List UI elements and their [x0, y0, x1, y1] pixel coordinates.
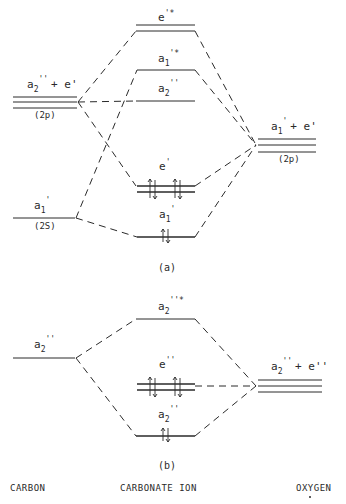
label-a1-bonding: a	[159, 208, 166, 221]
dot-mark	[309, 496, 311, 498]
caption-b: (b)	[158, 460, 176, 471]
panel-b: a2''* a2'' e'' a2''+ e''	[13, 296, 328, 471]
electron-pair-icon	[161, 428, 170, 442]
svg-text:a1'*: a1'*	[158, 49, 179, 68]
electron-pair-icon	[173, 377, 182, 397]
label-oxygen-2p: a	[271, 120, 278, 133]
orbital-oxygen-2p: (2p)	[278, 154, 300, 164]
svg-text:a2''*: a2''*	[158, 296, 184, 316]
caption-a: (a)	[158, 262, 176, 273]
mo-level-a2-star: a2''*	[136, 296, 195, 319]
carbon-level-2s: a1' (2S)	[13, 196, 75, 231]
mo-level-e-nb: e''	[137, 356, 195, 397]
panel-a: e'* a1'* a2'' a2''+ e' (2p) a1'+ e' (2p)	[13, 9, 317, 273]
electron-pair-icon	[173, 179, 182, 199]
svg-text:a2''+ e'': a2''+ e''	[271, 357, 328, 376]
column-label-carbon: CARBON	[10, 483, 46, 493]
carbon-level-a2: a2''	[13, 335, 75, 358]
mo-level-a1-star: a1'*	[137, 49, 195, 70]
electron-pair-icon	[161, 229, 170, 243]
svg-text:a1': a1'	[34, 196, 50, 215]
svg-text:a1': a1'	[159, 205, 175, 224]
label-oxygen-b: a	[271, 360, 278, 373]
label-a2-bonding: a	[158, 408, 165, 421]
mo-diagram: e'* a1'* a2'' a2''+ e' (2p) a1'+ e' (2p)	[0, 0, 346, 504]
mo-level-a2-bonding: a2''	[136, 405, 195, 442]
svg-text:a2'': a2''	[34, 335, 55, 354]
oxygen-level-b: a2''+ e''	[258, 357, 328, 392]
svg-text:a1'+ e': a1'+ e'	[271, 117, 317, 136]
electron-pair-icon	[148, 377, 157, 397]
label-carbon-a2: a	[34, 338, 41, 351]
label-e-nb: e	[159, 358, 166, 371]
electron-pair-icon	[148, 179, 157, 199]
label-a2-star: a	[158, 300, 165, 313]
mo-level-a1-bonding: a1'	[137, 205, 195, 243]
mo-level-a2-nb: a2''	[136, 79, 195, 101]
mo-level-e-bonding: e'	[137, 158, 195, 199]
label-e-bonding: e	[159, 160, 166, 173]
column-labels: CARBON CARBONATE ION OXYGEN	[10, 483, 332, 498]
column-label-carbonate-ion: CARBONATE ION	[120, 483, 197, 493]
svg-text:a2''+ e': a2''+ e'	[27, 75, 78, 94]
label-a2-nb: a	[158, 82, 165, 95]
label-a1-star: a	[158, 52, 165, 65]
svg-text:e'*: e'*	[158, 9, 174, 24]
column-label-oxygen: OXYGEN	[296, 483, 332, 493]
svg-text:a2'': a2''	[158, 405, 179, 424]
label-carbon-2p: a	[27, 78, 34, 91]
svg-text:e': e'	[159, 158, 170, 173]
orbital-carbon-2p: (2p)	[34, 110, 56, 120]
mo-level-e-star: e'*	[136, 9, 195, 31]
oxygen-level-2p: a1'+ e' (2p)	[258, 117, 317, 164]
label-carbon-2s: a	[34, 199, 41, 212]
svg-text:a2'': a2''	[158, 79, 179, 98]
orbital-carbon-2s: (2S)	[34, 221, 56, 231]
svg-text:e'': e''	[159, 356, 175, 371]
label-e-star: e	[158, 11, 165, 24]
carbon-level-2p: a2''+ e' (2p)	[13, 75, 78, 120]
